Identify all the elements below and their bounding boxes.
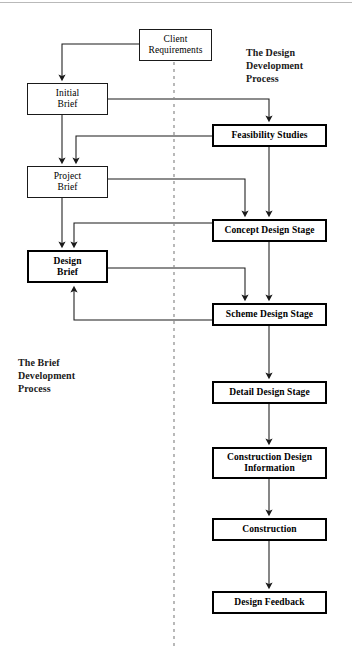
node-design-feedback[interactable]: Design Feedback — [212, 591, 327, 614]
node-label: InitialBrief — [54, 88, 81, 109]
node-label: Construction — [240, 524, 299, 535]
edge-feasibility-studies-to-project-brief — [76, 136, 212, 161]
node-label: ProjectBrief — [52, 171, 84, 192]
node-scheme-design-stage[interactable]: Scheme Design Stage — [212, 303, 327, 326]
node-label: Construction DesignInformation — [225, 452, 314, 473]
edge-design-brief-to-scheme-design-stage — [108, 268, 245, 298]
flowchart-canvas: ClientRequirements InitialBrief ProjectB… — [0, 0, 352, 650]
node-label: Concept Design Stage — [222, 225, 316, 236]
page-top-rule — [0, 2, 352, 3]
node-label: Design Feedback — [232, 597, 306, 608]
caption-brief-development-process: The BriefDevelopmentProcess — [18, 356, 75, 396]
node-label: DesignBrief — [51, 256, 83, 277]
node-label: Feasibility Studies — [229, 130, 309, 141]
node-client-requirements[interactable]: ClientRequirements — [139, 29, 212, 61]
edge-client-requirements-to-initial-brief — [62, 44, 139, 78]
node-construction-design-information[interactable]: Construction DesignInformation — [212, 447, 327, 479]
node-concept-design-stage[interactable]: Concept Design Stage — [212, 219, 327, 242]
node-label: Detail Design Stage — [227, 387, 312, 398]
node-construction[interactable]: Construction — [212, 518, 327, 541]
caption-design-development-process: The DesignDevelopmentProcess — [246, 46, 303, 86]
node-initial-brief[interactable]: InitialBrief — [27, 83, 108, 115]
edge-project-brief-to-concept-design-stage — [108, 179, 245, 214]
node-feasibility-studies[interactable]: Feasibility Studies — [212, 124, 327, 147]
edge-scheme-design-stage-to-design-brief — [74, 289, 212, 320]
node-design-brief[interactable]: DesignBrief — [27, 250, 108, 283]
edge-concept-design-stage-to-design-brief — [74, 223, 212, 245]
node-detail-design-stage[interactable]: Detail Design Stage — [212, 381, 327, 404]
node-project-brief[interactable]: ProjectBrief — [27, 166, 108, 198]
node-label: Scheme Design Stage — [224, 309, 315, 320]
edge-initial-brief-to-feasibility-studies — [108, 99, 269, 119]
node-label: ClientRequirements — [147, 34, 205, 55]
